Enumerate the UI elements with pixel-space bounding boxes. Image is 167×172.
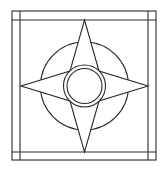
ring-outer: [64, 65, 106, 107]
stained-glass-diagram: [0, 0, 167, 172]
